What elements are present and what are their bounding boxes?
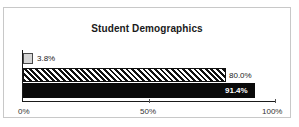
x-axis-tick-50 bbox=[149, 99, 150, 103]
chart-frame: Student Demographics 3.8% 80.0% 91.4% 0%… bbox=[3, 7, 291, 118]
bar-series-3 bbox=[23, 83, 255, 98]
data-label-series-1: 3.8% bbox=[37, 54, 55, 64]
bar-series-1 bbox=[23, 53, 33, 64]
x-axis-label-50: 50% bbox=[140, 107, 156, 116]
bar-series-2 bbox=[23, 68, 226, 82]
x-axis-tick-100 bbox=[275, 99, 276, 103]
data-label-series-2: 80.0% bbox=[229, 71, 252, 81]
x-axis-label-100: 100% bbox=[262, 107, 282, 116]
chart-title: Student Demographics bbox=[4, 23, 290, 34]
x-axis-label-0: 0% bbox=[18, 107, 30, 116]
data-label-series-3: 91.4% bbox=[225, 86, 248, 96]
